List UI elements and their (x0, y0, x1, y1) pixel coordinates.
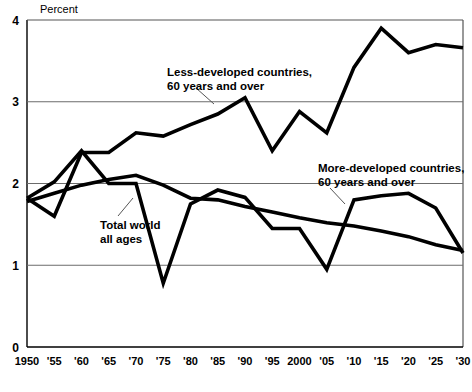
annotation-less-developed-line1: Less-developed countries, (167, 66, 312, 78)
y-tick-label-4: 4 (12, 14, 19, 28)
x-tick-label-2000: 2000 (287, 355, 311, 367)
x-tick-label-85: '85 (210, 355, 225, 367)
x-tick-label-15: '15 (374, 355, 389, 367)
x-tick-label-05: '05 (319, 355, 334, 367)
x-tick-label-65: '65 (101, 355, 116, 367)
y-tick-label-1: 1 (12, 259, 19, 273)
x-tick-label-55: '55 (47, 355, 62, 367)
annotation-more-developed-line2: 60 years and over (318, 176, 416, 188)
x-tick-label-75: '75 (156, 355, 171, 367)
y-axis-unit-label: Percent (40, 3, 78, 15)
x-tick-label-80: '80 (183, 355, 198, 367)
x-tick-label-10: '10 (347, 355, 362, 367)
chart-container: Percent 4 3 2 1 0 (0, 0, 472, 392)
x-tick-label-1950: 1950 (15, 355, 39, 367)
x-tick-label-70: '70 (129, 355, 144, 367)
x-tick-label-30: '30 (456, 355, 471, 367)
x-tick-labels: 1950'55'60'65'70'75'80'85'90'952000'05'1… (15, 355, 471, 367)
line-chart: Percent 4 3 2 1 0 (0, 0, 472, 392)
y-tick-label-0: 0 (12, 341, 19, 355)
y-tick-label-2: 2 (12, 177, 19, 191)
y-tick-label-3: 3 (12, 95, 19, 109)
x-tick-label-60: '60 (74, 355, 89, 367)
x-tick-label-90: '90 (238, 355, 253, 367)
annotation-less-developed-line2: 60 years and over (167, 80, 265, 92)
x-tick-label-25: '25 (428, 355, 443, 367)
x-tick-label-95: '95 (265, 355, 280, 367)
annotation-total-world-line2: all ages (100, 233, 142, 245)
annotation-more-developed-line1: More-developed countries, (318, 162, 464, 174)
annotation-total-world-line1: Total world (100, 219, 160, 231)
x-tick-label-20: '20 (401, 355, 416, 367)
